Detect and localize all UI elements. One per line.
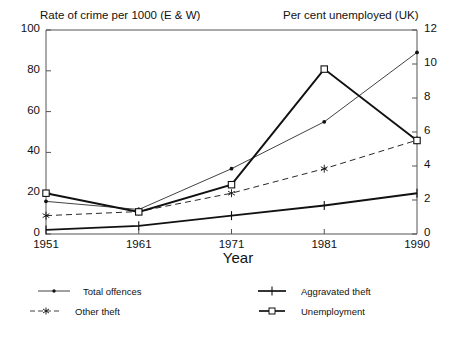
chart-legend: Total offences Other theft Aggravated th… bbox=[0, 283, 476, 331]
right-tick-label: 2 bbox=[424, 192, 452, 204]
legend-item-aggravated-theft: Aggravated theft bbox=[254, 285, 371, 297]
series-marker-total-offences bbox=[44, 199, 48, 203]
legend-label-other-theft: Other theft bbox=[71, 306, 120, 317]
legend-symbol-aggravated-theft-icon bbox=[254, 285, 290, 297]
left-tick-label: 100 bbox=[12, 22, 40, 34]
right-tick-label: 4 bbox=[424, 158, 452, 170]
series-marker-unemployment bbox=[136, 209, 142, 215]
x-axis-label: Year bbox=[0, 249, 476, 266]
right-tick-label: 10 bbox=[424, 56, 452, 68]
left-tick-label: 60 bbox=[12, 104, 40, 116]
right-tick-label: 12 bbox=[424, 22, 452, 34]
legend-symbol-unemployment-icon bbox=[254, 305, 290, 317]
legend-symbol-other-theft-icon bbox=[28, 305, 64, 317]
legend-label-total-offences: Total offences bbox=[79, 286, 141, 297]
left-tick-label: 0 bbox=[12, 226, 40, 238]
series-marker-unemployment bbox=[321, 66, 327, 72]
series-marker-total-offences bbox=[230, 167, 234, 171]
legend-item-other-theft: Other theft bbox=[28, 305, 120, 317]
series-marker-unemployment bbox=[414, 137, 420, 143]
legend-label-aggravated-theft: Aggravated theft bbox=[297, 286, 371, 297]
series-marker-unemployment bbox=[43, 190, 49, 196]
series-marker-total-offences bbox=[415, 51, 419, 55]
plot-area: 0204060801000246810121951196119711981199… bbox=[0, 0, 476, 280]
right-tick-label: 6 bbox=[424, 124, 452, 136]
legend-symbol-total-offences-icon bbox=[36, 285, 72, 297]
left-tick-label: 40 bbox=[12, 144, 40, 156]
series-marker-total-offences bbox=[322, 120, 326, 124]
chart-figure: Rate of crime per 1000 (E & W) Per cent … bbox=[0, 0, 476, 338]
right-tick-label: 0 bbox=[424, 226, 452, 238]
right-tick-label: 8 bbox=[424, 90, 452, 102]
legend-item-total-offences: Total offences bbox=[36, 285, 141, 297]
left-tick-label: 20 bbox=[12, 185, 40, 197]
legend-label-unemployment: Unemployment bbox=[297, 306, 365, 317]
series-marker-unemployment bbox=[228, 182, 234, 188]
legend-item-unemployment: Unemployment bbox=[254, 305, 365, 317]
left-tick-label: 80 bbox=[12, 63, 40, 75]
